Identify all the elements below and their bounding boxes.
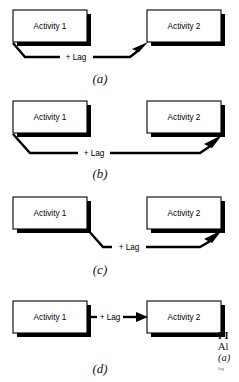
activity-1-label: Activity 1 bbox=[34, 313, 67, 322]
figure-caption-clipped: FI Al (a) lag bbox=[218, 330, 239, 374]
caption-item-a: (a) bbox=[218, 352, 239, 363]
link-c-lag-label: + Lag bbox=[119, 243, 140, 252]
link-d-lag-label: + Lag bbox=[100, 313, 121, 322]
activity-2-label: Activity 2 bbox=[168, 113, 201, 122]
link-a-arrowhead-icon bbox=[132, 42, 148, 52]
caption-line-small: lag bbox=[218, 363, 239, 374]
link-a-segment-right bbox=[93, 50, 139, 57]
link-c-segment-right bbox=[146, 240, 212, 247]
activity-1-label: Activity 1 bbox=[34, 209, 67, 218]
caption-figure-word: FI bbox=[218, 330, 239, 341]
panel-c-label: (c) bbox=[0, 263, 200, 276]
panel-a-label: (a) bbox=[0, 72, 200, 85]
activity-2-label: Activity 2 bbox=[168, 22, 201, 31]
activity-1-label: Activity 1 bbox=[34, 113, 67, 122]
caption-line-1: Al bbox=[218, 341, 239, 352]
link-b-lag-label: + Lag bbox=[84, 149, 105, 158]
link-c-segment-left bbox=[88, 230, 112, 247]
activity-2-label: Activity 2 bbox=[168, 209, 201, 218]
panel-b-label: (b) bbox=[0, 167, 200, 180]
activity-1-label: Activity 1 bbox=[34, 22, 67, 31]
panel-d-label: (d) bbox=[0, 362, 200, 375]
link-b-segment-right bbox=[110, 145, 212, 153]
link-a-lag-label: + Lag bbox=[66, 53, 87, 62]
link-d-arrowhead-icon bbox=[136, 312, 148, 322]
activity-2-label: Activity 2 bbox=[168, 313, 201, 322]
figure-activity-lag-diagram: Activity 1 Activity 2 + Lag (a) Activity… bbox=[0, 0, 239, 382]
